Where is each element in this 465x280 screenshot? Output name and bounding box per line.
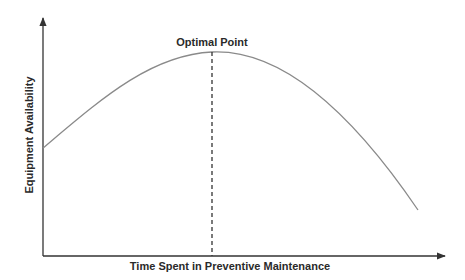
x-axis-label: Time Spent in Preventive Maintenance <box>130 260 330 272</box>
y-axis-label: Equipment Availability <box>23 76 35 194</box>
availability-chart: Optimal Point Time Spent in Preventive M… <box>0 0 465 280</box>
availability-curve <box>43 52 418 210</box>
optimal-point-label: Optimal Point <box>176 36 248 48</box>
